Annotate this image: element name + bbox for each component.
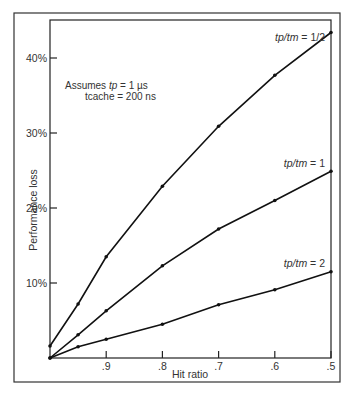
data-point xyxy=(161,322,165,326)
series-labels: tp/tm = 1/2tp/tm = 1tp/tm = 2 xyxy=(275,31,325,269)
data-point xyxy=(104,255,108,259)
data-point xyxy=(273,288,277,292)
data-point xyxy=(217,303,221,307)
x-axis-title: Hit ratio xyxy=(172,368,208,380)
note-line2: tcache = 200 ns xyxy=(85,91,156,102)
data-point xyxy=(76,345,80,349)
y-axis-title: Performance loss xyxy=(27,169,39,251)
plot-frame xyxy=(50,20,331,358)
data-point xyxy=(217,227,221,231)
x-tick-label: .8 xyxy=(158,360,167,372)
note-suffix: = 1 µs xyxy=(117,80,148,91)
series-label: tp/tm = 2 xyxy=(284,257,325,269)
x-axis: .9.8.7.6.5 xyxy=(102,351,336,372)
x-tick-label: .6 xyxy=(270,360,279,372)
data-point xyxy=(329,169,333,173)
data-point xyxy=(48,356,52,360)
y-tick-label: 10% xyxy=(26,277,47,289)
x-tick-label: .5 xyxy=(327,360,336,372)
x-tick-label: .9 xyxy=(102,360,111,372)
data-point xyxy=(161,184,165,188)
data-point xyxy=(273,73,277,77)
series-label: tp/tm = 1 xyxy=(284,157,325,169)
series-line xyxy=(50,272,331,358)
data-point xyxy=(329,270,333,274)
data-point xyxy=(161,264,165,268)
data-point xyxy=(104,309,108,313)
svg-text:Assumes tp = 1 µs: Assumes tp = 1 µs xyxy=(65,80,148,91)
note-prefix: Assumes xyxy=(65,80,109,91)
line-chart: 10%20%30%40% .9.8.7.6.5 Performance loss… xyxy=(0,0,351,393)
data-point xyxy=(48,344,52,348)
data-point xyxy=(329,31,333,35)
data-point xyxy=(76,333,80,337)
x-tick-label: .7 xyxy=(214,360,223,372)
series-label: tp/tm = 1/2 xyxy=(275,31,325,43)
y-tick-label: 30% xyxy=(26,127,47,139)
y-tick-label: 40% xyxy=(26,52,47,64)
data-point xyxy=(76,302,80,306)
data-point xyxy=(217,124,221,128)
assumptions-note: Assumes tp = 1 µs tcache = 200 ns xyxy=(65,80,156,102)
data-point xyxy=(104,337,108,341)
data-point xyxy=(273,199,277,203)
